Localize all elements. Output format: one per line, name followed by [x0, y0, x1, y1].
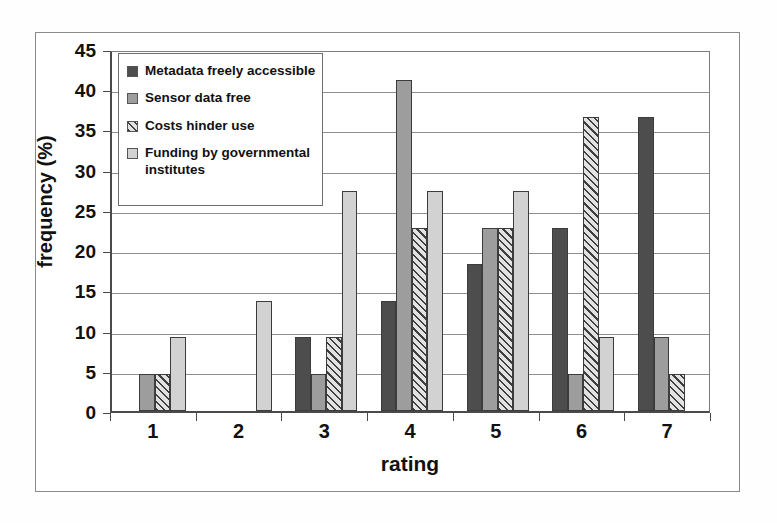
legend-item-label: Costs hinder use: [145, 118, 255, 134]
x-axis-tick-mark: [367, 413, 368, 421]
bar: [427, 191, 443, 411]
bar: [498, 228, 514, 411]
bar-group: [541, 52, 627, 411]
x-axis-tick-mark: [453, 413, 454, 421]
legend-item-label: Sensor data free: [145, 90, 251, 106]
bar: [342, 191, 358, 411]
x-axis-tick-mark: [624, 413, 625, 421]
bar: [139, 374, 155, 411]
y-axis-tick-mark: [103, 91, 110, 92]
y-axis-tick-mark: [103, 252, 110, 253]
bar: [669, 374, 685, 411]
bar: [482, 228, 498, 411]
x-axis-tick-label: 3: [281, 420, 367, 454]
bar: [170, 337, 186, 411]
legend-swatch-icon: [127, 66, 138, 77]
bar-group: [455, 52, 541, 411]
x-axis-tick-mark: [196, 413, 197, 421]
x-axis-tick-label: 4: [367, 420, 453, 454]
y-axis-tick-mark: [103, 131, 110, 132]
x-axis-tick-label: 7: [624, 420, 710, 454]
bar: [513, 191, 529, 411]
chart-figure: 051015202530354045 frequency (%) 1234567…: [0, 0, 777, 523]
x-axis-tick-label: 1: [110, 420, 196, 454]
bar-group: [369, 52, 455, 411]
y-axis-tick-mark: [103, 373, 110, 374]
bar-group: [626, 52, 712, 411]
y-axis-tick-mark: [103, 212, 110, 213]
x-axis-tick-mark: [281, 413, 282, 421]
bar: [552, 228, 568, 411]
x-axis-tick-labels: 1234567: [110, 420, 710, 454]
bar: [381, 301, 397, 411]
legend-swatch-icon: [127, 148, 138, 159]
y-axis-tick-label: 5: [44, 362, 96, 384]
bar: [583, 117, 599, 411]
bar: [568, 374, 584, 411]
legend-item: Costs hinder use: [127, 118, 316, 134]
x-axis-tick-mark: [539, 413, 540, 421]
y-axis-tick-label: 0: [44, 402, 96, 424]
bar: [638, 117, 654, 411]
bar: [467, 264, 483, 411]
legend-item-label: Metadata freely accessible: [145, 63, 315, 79]
y-axis-tick-mark: [103, 172, 110, 173]
x-axis-tick-label: 6: [539, 420, 625, 454]
bar: [155, 374, 171, 411]
legend-swatch-icon: [127, 121, 138, 132]
chart-legend: Metadata freely accessibleSensor data fr…: [118, 53, 323, 206]
y-axis-tick-mark: [103, 51, 110, 52]
x-axis-tick-mark: [110, 413, 111, 421]
y-axis-tick-mark: [103, 333, 110, 334]
bar: [412, 228, 428, 411]
bar: [599, 337, 615, 411]
legend-item: Funding by governmental institutes: [127, 145, 316, 178]
bar: [256, 301, 272, 411]
x-axis-tick-label: 2: [196, 420, 282, 454]
bar: [654, 337, 670, 411]
legend-swatch-icon: [127, 93, 138, 104]
y-axis-title: frequency (%): [34, 52, 57, 352]
bar: [311, 374, 327, 411]
x-axis-title: rating: [110, 452, 710, 476]
x-axis-tick-mark: [710, 413, 711, 421]
legend-item: Sensor data free: [127, 90, 316, 106]
legend-item-label: Funding by governmental institutes: [145, 145, 316, 178]
bar: [326, 337, 342, 411]
x-axis-tick-label: 5: [453, 420, 539, 454]
legend-item: Metadata freely accessible: [127, 63, 316, 79]
y-axis-tick-mark: [103, 292, 110, 293]
bar: [295, 337, 311, 411]
bar: [396, 80, 412, 411]
y-axis-tick-mark: [103, 413, 110, 414]
